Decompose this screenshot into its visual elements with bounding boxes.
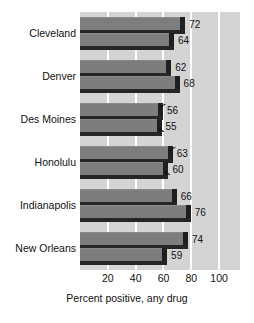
bar-face [80,119,157,133]
data-label: 76 [195,207,206,218]
data-label: 74 [192,234,203,245]
bar-face [80,60,166,74]
bar-lower [80,162,163,177]
x-tick-60: 60 [158,272,170,284]
x-axis-tick-labels: 20406080100 [80,272,240,286]
bar-lower [80,76,175,91]
bar-face [80,17,180,31]
category-label: Cleveland [0,27,76,39]
bar-face [80,103,158,117]
category-label: Des Moines [0,113,76,125]
bar-upper [80,232,183,247]
bar-shadow-side [166,60,171,73]
bar-shadow-side [169,33,174,46]
bar-lower [80,248,162,263]
bar-shadow-side [162,248,167,261]
bar-group: 7264 [80,12,240,55]
data-label: 64 [178,35,189,46]
bar-face [80,76,175,90]
bar-shadow-bottom [80,132,162,136]
category-label: Denver [0,70,76,82]
bar-shadow-side [183,232,188,245]
category-label: New Orleans [0,242,76,254]
category-label: Honolulu [0,156,76,168]
data-label: 62 [175,62,186,73]
bar-upper [80,103,158,118]
bar-shadow-bottom [80,89,180,93]
bar-shadow-bottom [80,46,174,50]
data-label: 55 [166,121,177,132]
bar-lower [80,119,157,134]
x-tick-80: 80 [185,272,197,284]
plot-area: 726462685655636066767459 [80,12,240,270]
bar-group: 5655 [80,98,240,141]
bar-face [80,232,183,246]
bar-face [80,189,172,203]
bar-shadow-side [186,205,191,218]
bar-shadow-bottom [80,175,168,179]
x-tick-100: 100 [210,272,228,284]
category-axis-labels: ClevelandDenverDes MoinesHonoluluIndiana… [0,12,76,270]
data-label: 56 [167,105,178,116]
data-label: 60 [172,164,183,175]
bar-group: 6268 [80,55,240,98]
bar-face [80,162,163,176]
bar-upper [80,146,168,161]
x-tick-40: 40 [130,272,142,284]
bar-upper [80,189,172,204]
bar-face [80,33,169,47]
data-label: 63 [177,148,188,159]
data-label: 72 [189,19,200,30]
x-tick-20: 20 [102,272,114,284]
bar-shadow-bottom [80,218,191,222]
bar-upper [80,17,180,32]
category-label: Indianapolis [0,199,76,211]
bar-group: 7459 [80,227,240,270]
bar-face [80,146,168,160]
bar-shadow-side [180,17,185,30]
bar-upper [80,60,166,75]
bar-lower [80,33,169,48]
x-axis-title: Percent positive, any drug [0,292,254,304]
chart-container: 726462685655636066767459 ClevelandDenver… [0,0,254,323]
bar-face [80,205,186,219]
bar-group: 6676 [80,184,240,227]
data-label: 68 [184,78,195,89]
bar-face [80,248,162,262]
data-label: 59 [171,250,182,261]
data-label: 66 [181,191,192,202]
bar-shadow-side [175,76,180,89]
bar-shadow-side [172,189,177,202]
bar-lower [80,205,186,220]
bar-shadow-bottom [80,261,167,265]
bar-group: 6360 [80,141,240,184]
